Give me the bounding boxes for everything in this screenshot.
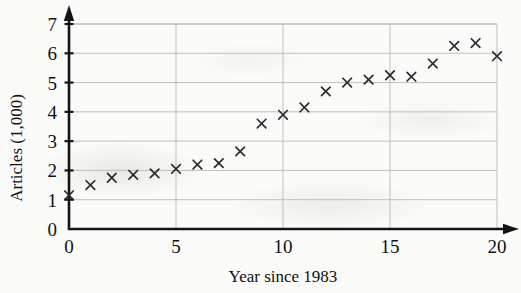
y-tick-label: 4 (48, 102, 58, 123)
y-tick-label: 2 (48, 160, 58, 181)
x-axis-title: Year since 1983 (229, 267, 338, 286)
y-axis-title: Articles (1,000) (7, 94, 26, 202)
data-point (429, 59, 438, 68)
data-point (407, 72, 416, 81)
x-tick-label: 20 (488, 236, 507, 257)
scatter-plot-svg: 01234567 05101520 Articles (1,000) Year … (0, 0, 521, 293)
data-point (450, 42, 459, 51)
x-tick-label: 5 (171, 236, 181, 257)
data-point (236, 147, 245, 156)
data-point (257, 119, 266, 128)
data-point (86, 181, 95, 190)
y-tick-labels: 01234567 (48, 14, 58, 240)
data-point (108, 173, 117, 182)
data-point (300, 103, 309, 112)
y-tick-label: 7 (48, 14, 58, 35)
data-point (193, 160, 202, 169)
data-point (322, 87, 331, 96)
data-point (129, 171, 138, 180)
x-tick-labels: 05101520 (64, 236, 506, 257)
chart-figure: 01234567 05101520 Articles (1,000) Year … (0, 0, 521, 293)
data-point (471, 39, 480, 48)
x-tick-label: 15 (381, 236, 400, 257)
y-tick-label: 3 (48, 131, 58, 152)
x-tick-label: 10 (274, 236, 293, 257)
x-tick-label: 0 (64, 236, 74, 257)
y-tick-label: 6 (48, 43, 58, 64)
y-tick-label: 1 (48, 190, 58, 211)
y-tick-label: 0 (48, 219, 58, 240)
y-tick-label: 5 (48, 73, 58, 94)
gridlines-group (69, 24, 497, 229)
data-point (215, 159, 224, 168)
